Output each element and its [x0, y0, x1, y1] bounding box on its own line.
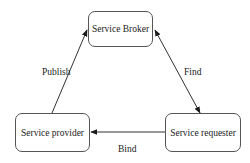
service-provider-node: Service provider: [15, 113, 90, 152]
service-provider-label: Service provider: [21, 128, 84, 138]
service-broker-label: Service Broker: [92, 24, 149, 34]
find-label: Find: [184, 67, 201, 77]
service-requester-node: Service requester: [165, 113, 241, 152]
service-broker-node: Service Broker: [88, 11, 153, 47]
publish-label: Publish: [42, 67, 71, 77]
bind-label: Bind: [118, 144, 136, 154]
service-requester-label: Service requester: [170, 128, 236, 138]
